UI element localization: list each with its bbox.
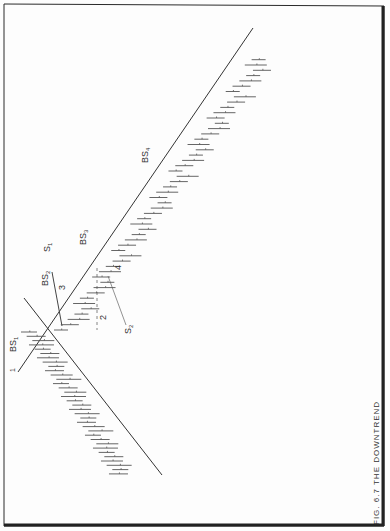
svg-text:BS2: BS2 bbox=[40, 270, 51, 286]
label-bs4: BS4 bbox=[140, 147, 151, 163]
chart-canvas: BS1 1 BS2 3 S1 2 S2 BS3 4 BS4 FIG. bbox=[0, 0, 390, 531]
label-bs2: BS2 bbox=[40, 270, 51, 286]
frame-border bbox=[4, 4, 384, 526]
svg-text:1: 1 bbox=[9, 368, 16, 372]
svg-text:S1: S1 bbox=[42, 242, 53, 252]
svg-text:3: 3 bbox=[57, 285, 67, 290]
label-n1: 1 bbox=[9, 368, 16, 372]
svg-text:2: 2 bbox=[98, 315, 108, 320]
svg-text:BS3: BS3 bbox=[78, 229, 89, 245]
svg-text:FIG. 6.7 THE DOWNTREND: FIG. 6.7 THE DOWNTREND bbox=[372, 401, 381, 525]
s2-pointer-line bbox=[108, 276, 126, 325]
label-s2: S2 bbox=[123, 324, 134, 334]
figure-page: BS1 1 BS2 3 S1 2 S2 BS3 4 BS4 FIG. bbox=[0, 0, 390, 531]
downtrend-line bbox=[18, 28, 253, 372]
label-s1: S1 bbox=[42, 242, 53, 252]
label-n3: 3 bbox=[57, 285, 67, 290]
svg-text:BS4: BS4 bbox=[140, 147, 151, 163]
s1-arrow-line bbox=[52, 272, 62, 326]
svg-text:4: 4 bbox=[113, 265, 123, 270]
price-bars bbox=[21, 58, 271, 474]
label-n2: 2 bbox=[98, 315, 108, 320]
figure-caption: FIG. 6.7 THE DOWNTREND bbox=[372, 401, 381, 525]
svg-text:BS1: BS1 bbox=[8, 336, 19, 352]
label-n4: 4 bbox=[113, 265, 123, 270]
label-bs1: BS1 bbox=[8, 336, 19, 352]
label-bs3: BS3 bbox=[78, 229, 89, 245]
svg-text:S2: S2 bbox=[123, 324, 134, 334]
